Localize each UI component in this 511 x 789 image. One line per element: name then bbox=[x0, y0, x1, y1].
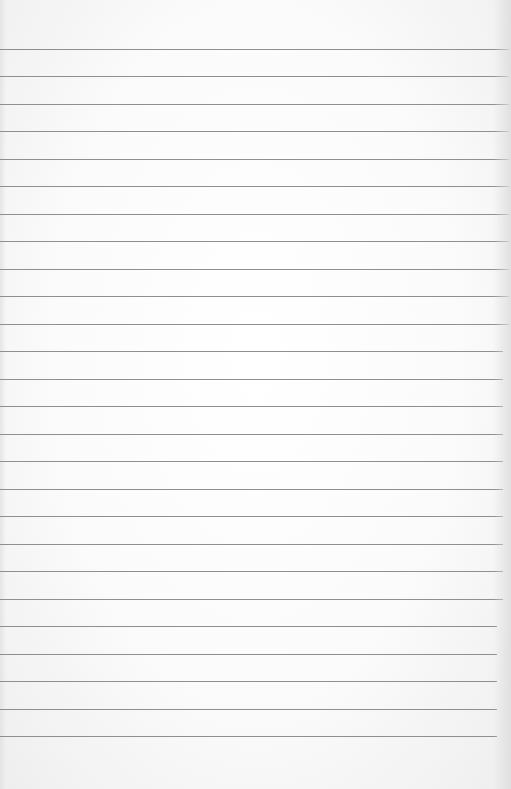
ruled-line bbox=[0, 186, 509, 187]
ruled-line bbox=[0, 516, 503, 517]
ruled-line bbox=[0, 351, 503, 352]
ruled-line bbox=[0, 736, 497, 737]
ruled-line bbox=[0, 49, 509, 50]
ruled-line bbox=[0, 324, 509, 325]
ruled-line bbox=[0, 406, 503, 407]
ruled-line bbox=[0, 434, 503, 435]
ruled-line bbox=[0, 379, 503, 380]
ruled-line bbox=[0, 131, 509, 132]
ruled-line bbox=[0, 626, 497, 627]
ruled-line bbox=[0, 104, 509, 105]
ruled-line bbox=[0, 571, 503, 572]
ruled-line bbox=[0, 461, 503, 462]
ruled-line bbox=[0, 709, 497, 710]
ruled-line bbox=[0, 241, 509, 242]
ruled-line bbox=[0, 544, 503, 545]
ruled-line bbox=[0, 654, 497, 655]
ruled-line bbox=[0, 76, 509, 77]
ruled-line bbox=[0, 296, 509, 297]
ruled-line bbox=[0, 489, 503, 490]
ruled-line bbox=[0, 159, 509, 160]
ruled-line bbox=[0, 214, 509, 215]
lined-paper-sheet bbox=[0, 0, 511, 789]
ruled-line bbox=[0, 269, 509, 270]
ruled-line bbox=[0, 599, 503, 600]
ruled-line bbox=[0, 681, 497, 682]
